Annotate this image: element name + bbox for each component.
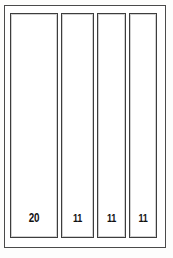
panel-1: 20 — [10, 13, 58, 238]
panel-4-label: 11 — [132, 213, 153, 224]
panel-elevation-diagram: 20 11 11 11 — [0, 0, 173, 258]
panel-2: 11 — [61, 13, 94, 238]
panel-2-label: 11 — [65, 213, 90, 224]
panel-band: 20 11 11 11 — [0, 0, 173, 258]
panel-1-label: 20 — [15, 212, 53, 224]
panel-4: 11 — [129, 13, 157, 238]
panel-3-label: 11 — [100, 213, 122, 224]
panel-3: 11 — [97, 13, 126, 238]
